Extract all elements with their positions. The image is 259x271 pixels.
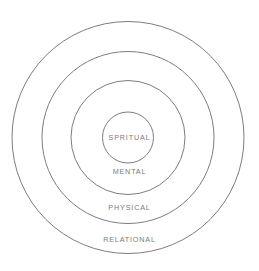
ring-label-spiritual: SPRITUAL [0,133,259,142]
ring-label-physical: PHYSICAL [0,203,259,212]
ring-label-relational: RELATIONAL [0,235,259,244]
ring-label-mental: MENTAL [0,167,259,176]
concentric-rings-diagram: SPRITUAL MENTAL PHYSICAL RELATIONAL [0,0,259,271]
